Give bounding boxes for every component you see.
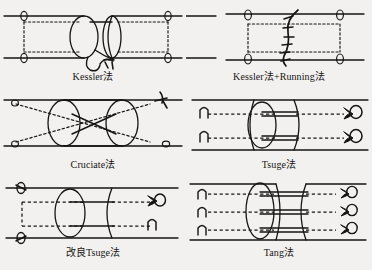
- grasp-loop-top-left: [245, 10, 252, 20]
- anchor-loop-2: [200, 132, 208, 143]
- cut-end-ellipse: [248, 102, 276, 148]
- suture-technique-figure: Kessler法: [0, 0, 372, 270]
- needle-shaft: [160, 92, 163, 103]
- cut-end-ellipse-right: [106, 100, 138, 146]
- grasp-loop-bottom-right: [337, 54, 344, 64]
- kessler-running-diagram: [186, 0, 372, 78]
- knot-glyph-1-bow: [341, 189, 349, 198]
- anchor-loop-3: [198, 226, 206, 236]
- suture-end-loop-top-left: [12, 100, 19, 106]
- stump-curve-right: [107, 188, 112, 238]
- anchor-loop-1: [198, 190, 206, 200]
- kessler-diagram: [0, 0, 186, 78]
- knot-glyph-3-circle: [347, 222, 357, 233]
- grasp-loop-bottom-left: [245, 54, 252, 64]
- knot-glyph-2-circle: [347, 204, 357, 215]
- panel-kessler-running: Kessler法+Running法: [186, 0, 372, 90]
- grasp-loop-top-right: [337, 10, 344, 20]
- knot-glyph-1-circle: [350, 106, 362, 119]
- panel-modified-tsuge: 改良Tsuge法: [0, 178, 186, 270]
- caption-tang: Tang法: [186, 244, 372, 259]
- caption-tsuge: Tsuge法: [186, 156, 372, 171]
- cut-end-ellipse: [55, 189, 85, 237]
- anchor-loop-right: [148, 220, 156, 231]
- knot-glyph-1-circle: [347, 186, 357, 197]
- panel-tang: Tang法: [186, 178, 372, 270]
- cut-end-ellipse-left: [48, 100, 80, 146]
- anchor-loop-1: [200, 108, 208, 119]
- panel-tsuge: Tsuge法: [186, 88, 372, 180]
- knot-glyph-3-bow: [341, 225, 349, 234]
- running-stitch-4: [282, 44, 292, 45]
- running-stitch-6: [281, 59, 290, 61]
- needle-tail: [163, 101, 167, 108]
- running-stitch-2: [283, 27, 293, 28]
- anchor-loop-2: [198, 208, 206, 218]
- stump-curve-right: [294, 100, 299, 150]
- knot-glyph-2-circle: [350, 130, 362, 143]
- caption-kessler: Kessler法: [0, 68, 186, 83]
- caption-modified-tsuge: 改良Tsuge法: [0, 244, 186, 259]
- running-stitch-5: [280, 52, 290, 53]
- panel-cruciate: Cruciate法: [0, 88, 186, 180]
- panel-kessler: Kessler法: [0, 0, 186, 90]
- caption-kessler-running: Kessler法+Running法: [186, 68, 372, 83]
- knot-glyph-2-bow: [341, 207, 349, 216]
- caption-cruciate: Cruciate法: [0, 156, 186, 171]
